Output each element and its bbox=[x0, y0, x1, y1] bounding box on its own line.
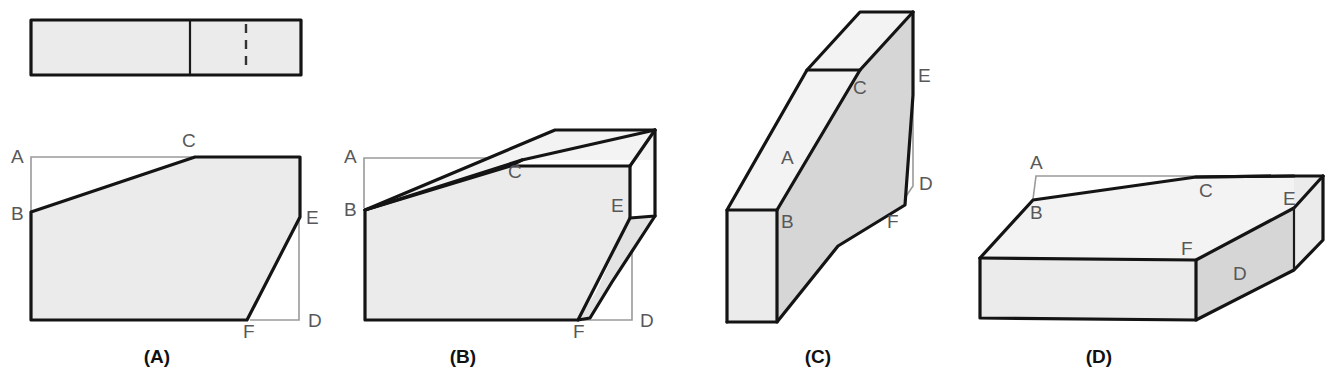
figure-b[interactable]: A B C E D F (B) bbox=[344, 130, 655, 367]
figure-d-edge-c-fold bbox=[1196, 176, 1294, 177]
figure-b-label-F: F bbox=[573, 321, 585, 342]
plan-view-rectangle bbox=[31, 20, 301, 75]
figure-c-label-C: C bbox=[853, 77, 867, 98]
figure-a-caption: (A) bbox=[144, 346, 170, 367]
figure-b-caption: (B) bbox=[450, 346, 476, 367]
figure-canvas: A B C E D F (A) bbox=[0, 0, 1336, 385]
figure-d-label-A: A bbox=[1030, 152, 1043, 173]
figure-d-label-B: B bbox=[1030, 202, 1043, 223]
figure-c-label-F: F bbox=[887, 211, 899, 232]
figure-c-label-E: E bbox=[918, 65, 931, 86]
figure-d-caption: (D) bbox=[1086, 346, 1112, 367]
figure-b-label-B: B bbox=[344, 199, 357, 220]
figure-c-caption: (C) bbox=[805, 346, 831, 367]
figure-c-label-D: D bbox=[919, 173, 933, 194]
figure-a[interactable]: A B C E D F (A) bbox=[11, 130, 322, 367]
figure-d-front-face bbox=[980, 258, 1196, 320]
figure-b-label-E: E bbox=[611, 195, 624, 216]
figure-root: A B C E D F (A) bbox=[0, 0, 1336, 385]
figure-b-label-A: A bbox=[344, 146, 357, 167]
figure-a-label-F: F bbox=[243, 321, 255, 342]
figure-d[interactable]: A B C E F D (D) bbox=[980, 152, 1323, 367]
figure-d-label-C: C bbox=[1199, 180, 1213, 201]
figure-c-left-end-face bbox=[727, 210, 777, 322]
figure-d-label-E: E bbox=[1283, 188, 1296, 209]
figure-a-label-E: E bbox=[306, 207, 319, 228]
figure-c-label-B: B bbox=[781, 211, 794, 232]
figure-d-label-F: F bbox=[1181, 238, 1193, 259]
figure-c-label-A: A bbox=[781, 147, 794, 168]
figure-a-label-C: C bbox=[182, 130, 196, 151]
figure-a-label-D: D bbox=[308, 310, 322, 331]
figure-a-label-A: A bbox=[11, 146, 24, 167]
figure-b-label-D: D bbox=[640, 310, 654, 331]
figure-a-label-B: B bbox=[11, 203, 24, 224]
figure-d-label-D: D bbox=[1233, 263, 1247, 284]
figure-c[interactable]: C E A D B F (C) bbox=[727, 12, 933, 367]
figure-b-label-C: C bbox=[508, 161, 522, 182]
